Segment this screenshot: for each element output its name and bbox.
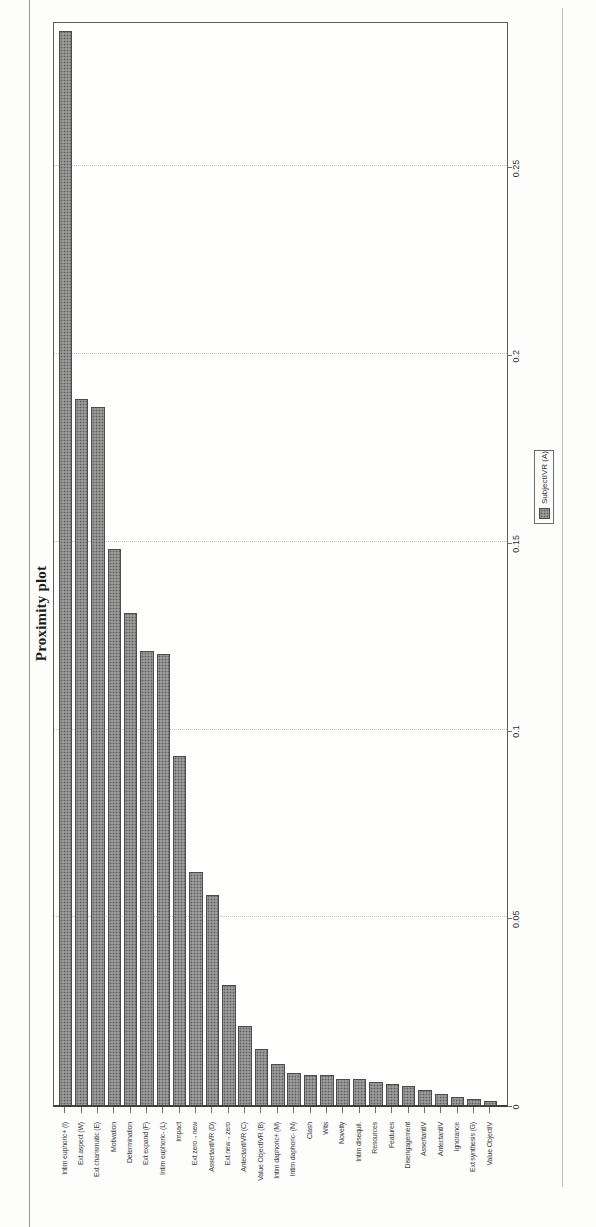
bar [484, 1101, 498, 1105]
category-axis-tick [81, 1107, 82, 1113]
gridline [54, 916, 507, 917]
category-label: Ignorance [450, 1115, 464, 1227]
category-axis-tick [162, 1107, 163, 1113]
gridline [54, 353, 507, 354]
bar [369, 1082, 383, 1105]
value-axis-tick-label: 0.25 [511, 146, 521, 190]
category-axis-tick [260, 1107, 261, 1113]
value-axis-tick-label: 0 [511, 1085, 521, 1129]
value-axis-tick-label: 0.1 [511, 710, 521, 754]
legend: SubjectIVR (A) [534, 450, 554, 524]
category-label: Intim disequil. [352, 1115, 366, 1227]
category-axis-tick [310, 1107, 311, 1113]
category-label: Intim daphoric- (N) [286, 1115, 300, 1227]
category-axis-tick [473, 1107, 474, 1113]
category-label: AntectantIVR (C) [237, 1115, 251, 1227]
category-label: Clash [303, 1115, 317, 1227]
category-label: AntectantIV [434, 1115, 448, 1227]
category-axis-tick [64, 1107, 65, 1113]
category-label: Ext new→zero [221, 1115, 235, 1227]
category-axis-tick [424, 1107, 425, 1113]
bar [124, 613, 138, 1105]
category-label: Determination [123, 1115, 137, 1227]
category-label: Ext synthesis (G) [466, 1115, 480, 1227]
bar [336, 1079, 350, 1105]
bar [238, 1026, 252, 1105]
category-axis-tick [113, 1107, 114, 1113]
bar [271, 1064, 285, 1105]
gridline [54, 165, 507, 166]
bar [189, 872, 203, 1105]
bar [451, 1098, 465, 1106]
category-label: Ext aspect (W) [74, 1115, 88, 1227]
category-label: Ext charismatic (E) [90, 1115, 104, 1227]
category-label: Novelty [335, 1115, 349, 1227]
rotated-chart-canvas: Proximity plot Intim euphoric+ (I)Ext as… [0, 0, 596, 1227]
plot-area [53, 22, 508, 1107]
value-axis-tick-label: 0.2 [511, 334, 521, 378]
category-axis-tick [211, 1107, 212, 1113]
category-axis-tick [244, 1107, 245, 1113]
bar [108, 549, 122, 1105]
category-axis-labels: Intim euphoric+ (I)Ext aspect (W)Ext cha… [53, 1115, 508, 1227]
bar [255, 1049, 269, 1105]
bar [287, 1073, 301, 1105]
category-label: Intim daphoric+ (M) [270, 1115, 284, 1227]
category-axis-tick [359, 1107, 360, 1113]
category-label: Impact [172, 1115, 186, 1227]
bar [320, 1075, 334, 1105]
category-axis-tick [375, 1107, 376, 1113]
category-label: Value ObjectIV [483, 1115, 497, 1227]
page-rule-top [29, 0, 30, 1227]
gridline [54, 729, 507, 730]
bar [222, 985, 236, 1105]
bar [157, 654, 171, 1105]
value-axis-tick-label: 0.15 [511, 522, 521, 566]
bar [140, 651, 154, 1105]
category-axis-tick [391, 1107, 392, 1113]
value-axis-tick-label: 0.05 [511, 897, 521, 941]
bar [173, 756, 187, 1105]
category-axis-tick [489, 1107, 490, 1113]
category-label: AssertantIV [417, 1115, 431, 1227]
category-axis-tick [179, 1107, 180, 1113]
category-label: Features [385, 1115, 399, 1227]
legend-label: SubjectIVR (A) [540, 451, 549, 504]
category-label: Value ObjectIVR (B) [254, 1115, 268, 1227]
category-axis-tick [146, 1107, 147, 1113]
category-label: Intim euphoric- (L) [156, 1115, 170, 1227]
category-axis-tick [97, 1107, 98, 1113]
category-axis-tick [440, 1107, 441, 1113]
bar [91, 407, 105, 1105]
category-axis-tick [130, 1107, 131, 1113]
scanned-page: Proximity plot Intim euphoric+ (I)Ext as… [0, 0, 596, 1227]
category-label: Disengagement [401, 1115, 415, 1227]
bar [435, 1094, 449, 1105]
bar [467, 1099, 481, 1105]
category-axis-tick [342, 1107, 343, 1113]
category-label: Ext expand (F) [139, 1115, 153, 1227]
category-axis-tick [408, 1107, 409, 1113]
category-label: Motivation [107, 1115, 121, 1227]
category-label: Resources [368, 1115, 382, 1227]
category-axis-tick [195, 1107, 196, 1113]
category-label: Wits [319, 1115, 333, 1227]
category-label: Ext zero→new [188, 1115, 202, 1227]
category-label: AssertantIVR (D) [205, 1115, 219, 1227]
legend-swatch-icon [539, 508, 550, 519]
category-axis-tick [326, 1107, 327, 1113]
bar [386, 1084, 400, 1105]
bar [353, 1079, 367, 1105]
bar [418, 1090, 432, 1105]
bar [59, 31, 73, 1105]
bar [206, 895, 220, 1105]
bar [75, 399, 89, 1105]
category-axis-tick [457, 1107, 458, 1113]
category-label: Intim euphoric+ (I) [58, 1115, 72, 1227]
bar [304, 1075, 318, 1105]
bar [402, 1086, 416, 1105]
page-rule-bottom [562, 8, 563, 1187]
category-axis-tick [293, 1107, 294, 1113]
category-axis-tick [277, 1107, 278, 1113]
category-axis-tick [228, 1107, 229, 1113]
